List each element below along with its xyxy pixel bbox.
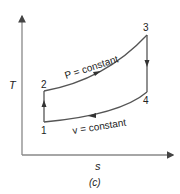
ts-diagram: T s (c) P = constant v = constant 1 2 3 …: [0, 0, 180, 194]
state-label-4: 4: [143, 95, 149, 106]
state-label-2: 2: [41, 79, 47, 90]
process-2-3-label: P = constant: [63, 53, 120, 81]
arrow-down-icon: [145, 60, 150, 67]
y-axis-label: T: [9, 79, 17, 91]
state-label-1: 1: [41, 125, 47, 136]
arrow-up-icon: [42, 100, 47, 107]
x-axis-label: s: [95, 160, 101, 172]
caption: (c): [89, 177, 101, 188]
state-label-3: 3: [143, 22, 149, 33]
process-4-1-label: v = constant: [72, 117, 127, 136]
